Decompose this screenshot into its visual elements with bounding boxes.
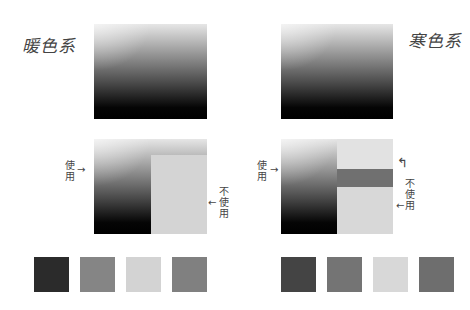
warm-swatch-4 [172,257,207,292]
cool-unused-panel-top [337,139,393,169]
cool-swatch-2 [327,257,362,292]
warm-use-label: 使用 [64,160,75,182]
warm-not-use-label: 不使用 [218,186,229,219]
cool-swatch-1 [281,257,316,292]
cool-use-label: 使用 [256,160,267,182]
gradient-highlight [94,24,207,119]
warm-not-use-arrow-icon: ← [208,198,216,208]
cool-title: 寒色系 [408,27,462,52]
warm-swatch-2 [80,257,115,292]
warm-swatch-1 [34,257,69,292]
warm-unused-panel [151,155,207,234]
cool-composite-box [281,139,393,234]
gradient-highlight [281,24,393,119]
cool-swatch-4 [419,257,454,292]
warm-title: 暖色系 [22,32,76,57]
warm-composite-box [94,139,207,234]
cool-swatch-3 [373,257,408,292]
cool-use-arrow-icon: → [270,165,278,175]
cool-not-use-arrow-icon: ← [396,201,404,211]
cool-not-use-label: 不使用 [404,178,415,211]
warm-use-arrow-icon: → [77,165,85,175]
warm-gradient-box [94,24,207,119]
cool-curved-arrow-icon: ↰ [397,158,408,168]
cool-used-bar [337,169,393,187]
warm-swatch-3 [126,257,161,292]
cool-gradient-box [281,24,393,119]
cool-unused-panel-bottom [337,187,393,234]
